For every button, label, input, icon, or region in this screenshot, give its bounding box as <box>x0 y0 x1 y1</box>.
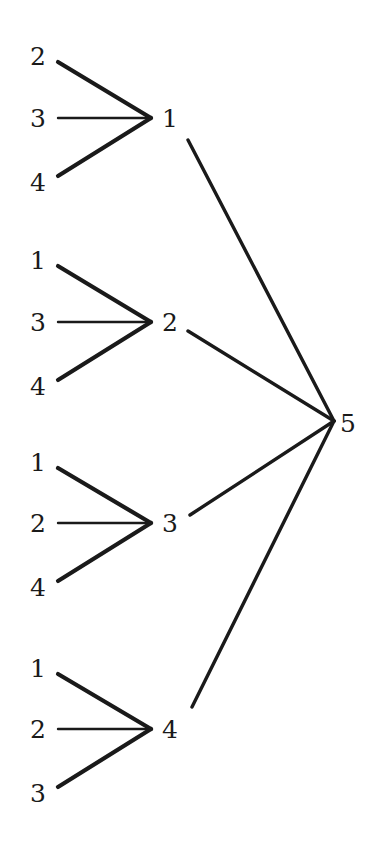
leaf-label-g3-1: 1 <box>30 450 46 475</box>
leaf-label-g4-3: 3 <box>30 781 46 806</box>
leaf-label-g3-3: 4 <box>30 575 46 600</box>
edge-leaf-4-1 <box>58 674 151 729</box>
root-node-label: 5 <box>340 411 356 436</box>
leaf-label-g1-3: 4 <box>30 170 46 195</box>
edge-leaf-1-3 <box>58 118 151 176</box>
edge-mid-4-to-root <box>192 421 334 707</box>
edge-leaf-3-3 <box>58 523 151 581</box>
leaf-label-g2-2: 3 <box>30 310 46 335</box>
edge-leaf-2-3 <box>58 322 151 380</box>
diagram-edges <box>0 0 384 852</box>
mid-node-label-4: 4 <box>162 717 178 742</box>
mid-node-label-3: 3 <box>162 511 178 536</box>
mid-node-label-1: 1 <box>162 106 178 131</box>
leaf-label-g2-3: 4 <box>30 374 46 399</box>
edge-leaf-1-1 <box>58 62 151 118</box>
edge-leaf-2-1 <box>58 266 151 322</box>
leaf-label-g4-1: 1 <box>30 656 46 681</box>
leaf-label-g3-2: 2 <box>30 511 46 536</box>
edge-leaf-3-1 <box>58 468 151 523</box>
leaf-label-g1-2: 3 <box>30 106 46 131</box>
edge-mid-1-to-root <box>188 140 334 421</box>
edge-leaf-4-3 <box>58 729 151 787</box>
leaf-label-g1-1: 2 <box>30 44 46 69</box>
leaf-label-g2-1: 1 <box>30 248 46 273</box>
tree-diagram: 23411342124312345 <box>0 0 384 852</box>
mid-node-label-2: 2 <box>162 310 178 335</box>
leaf-label-g4-2: 2 <box>30 717 46 742</box>
